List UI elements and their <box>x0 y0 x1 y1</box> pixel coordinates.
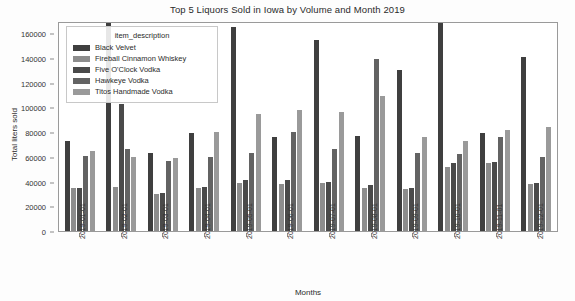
bar <box>113 187 118 231</box>
bar-group <box>516 23 558 231</box>
x-tick-label: 2019-11-01 <box>496 204 503 239</box>
legend-entries: Black VelvetFireball Cinnamon WhiskeyFiv… <box>73 42 211 97</box>
bar <box>214 132 219 231</box>
legend-entry: Titos Handmade Vodka <box>73 86 211 97</box>
legend-entry: Black Velvet <box>73 42 211 53</box>
bar-group <box>225 23 267 231</box>
y-tick-label: 120000 <box>21 79 46 88</box>
bar <box>256 114 261 231</box>
y-tick-label: 100000 <box>21 104 46 113</box>
y-axis: Total liters sold 0200004000060000800001… <box>0 22 54 232</box>
bar <box>196 188 201 231</box>
chart-figure: Top 5 Liquors Sold in Iowa by Volume and… <box>0 0 575 301</box>
x-tick-label: 2019-04-01 <box>204 203 211 239</box>
x-tick: 2019-08-01 <box>350 233 392 293</box>
bar-group <box>267 23 309 231</box>
legend-entry: Five O'Clock Vodka <box>73 64 211 75</box>
bar <box>272 137 277 231</box>
legend-label: Titos Handmade Vodka <box>95 87 173 96</box>
y-tick-mark <box>50 34 54 35</box>
legend-entry: Fireball Cinnamon Whiskey <box>73 53 211 64</box>
bar <box>480 133 485 231</box>
legend-label: Five O'Clock Vodka <box>95 65 160 74</box>
legend-title: item_description <box>73 31 211 40</box>
legend-swatch <box>73 78 90 84</box>
bar-group <box>350 23 392 231</box>
bar <box>90 151 95 231</box>
legend: item_description Black VelvetFireball Ci… <box>66 26 218 103</box>
bar <box>339 112 344 231</box>
y-tick-mark <box>50 157 54 158</box>
bar <box>546 127 551 231</box>
bar <box>297 110 302 231</box>
x-tick: 2019-09-01 <box>391 233 433 293</box>
x-axis-title: Months <box>58 288 558 297</box>
bar <box>397 70 402 231</box>
legend-swatch <box>73 45 90 51</box>
x-tick: 2019-06-01 <box>266 233 308 293</box>
y-tick-mark <box>50 83 54 84</box>
x-axis: 2019-01-012019-02-012019-03-012019-04-01… <box>58 233 558 293</box>
bar <box>237 183 242 231</box>
bar <box>528 184 533 231</box>
bar-group <box>474 23 516 231</box>
x-tick-label: 2019-07-01 <box>329 203 336 239</box>
x-tick: 2019-10-01 <box>433 233 475 293</box>
bar <box>521 57 526 231</box>
bar <box>403 189 408 231</box>
legend-swatch <box>73 89 90 95</box>
y-tick-label: 80000 <box>25 129 46 138</box>
legend-label: Hawkeye Vodka <box>95 76 149 85</box>
bar <box>231 27 236 231</box>
y-tick-label: 160000 <box>21 30 46 39</box>
bar <box>189 133 194 231</box>
y-tick-label: 20000 <box>25 203 46 212</box>
bar <box>355 136 360 231</box>
y-axis-title: Total liters sold <box>10 55 19 215</box>
bar <box>380 96 385 231</box>
x-tick-label: 2019-03-01 <box>162 203 169 239</box>
x-tick-label: 2019-02-01 <box>121 203 128 239</box>
bar-group <box>433 23 475 231</box>
bar <box>131 157 136 231</box>
x-tick-label: 2019-10-01 <box>454 203 461 239</box>
y-tick-mark <box>50 207 54 208</box>
x-tick: 2019-12-01 <box>516 233 558 293</box>
x-tick: 2019-04-01 <box>183 233 225 293</box>
bar-group <box>308 23 350 231</box>
y-tick-label: 0 <box>42 228 46 237</box>
bar <box>154 194 159 231</box>
y-tick-mark <box>50 232 54 233</box>
bar <box>173 158 178 231</box>
x-tick-label: 2019-05-01 <box>246 203 253 239</box>
y-tick-mark <box>50 108 54 109</box>
y-tick-label: 60000 <box>25 153 46 162</box>
y-tick-mark <box>50 59 54 60</box>
bar <box>71 188 76 231</box>
chart-title: Top 5 Liquors Sold in Iowa by Volume and… <box>0 4 575 15</box>
bar <box>505 130 510 231</box>
legend-entry: Hawkeye Vodka <box>73 75 211 86</box>
x-tick: 2019-05-01 <box>225 233 267 293</box>
x-tick-label: 2019-09-01 <box>412 203 419 239</box>
x-tick: 2019-11-01 <box>475 233 517 293</box>
bar <box>445 167 450 231</box>
bar <box>486 163 491 231</box>
bar <box>314 40 319 231</box>
y-tick-label: 40000 <box>25 178 46 187</box>
bar <box>279 184 284 231</box>
bar <box>438 22 443 231</box>
bar <box>320 183 325 231</box>
y-tick-label: 140000 <box>21 55 46 64</box>
bar <box>422 137 427 231</box>
x-tick: 2019-07-01 <box>308 233 350 293</box>
y-tick-mark <box>50 182 54 183</box>
x-tick-label: 2019-06-01 <box>287 203 294 239</box>
bar <box>362 188 367 231</box>
y-tick-mark <box>50 133 54 134</box>
x-tick: 2019-01-01 <box>58 233 100 293</box>
x-tick-label: 2019-12-01 <box>537 203 544 239</box>
legend-label: Fireball Cinnamon Whiskey <box>95 54 186 63</box>
bar-group <box>391 23 433 231</box>
legend-swatch <box>73 56 90 62</box>
